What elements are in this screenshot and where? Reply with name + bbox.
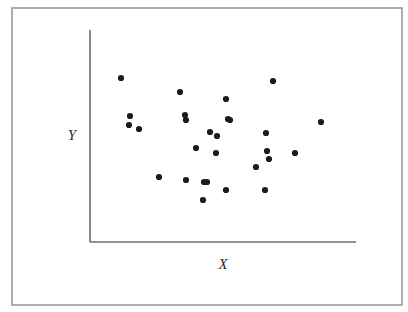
data-point [214,133,220,139]
data-point [200,197,206,203]
data-point [183,177,189,183]
data-point [201,179,207,185]
data-point [127,113,133,119]
data-point [227,117,233,123]
scatterplot-canvas: Y X [0,0,408,312]
data-point [183,117,189,123]
data-point [266,156,272,162]
scatterplot-figure: Y X [0,0,408,312]
data-point [118,75,124,81]
data-point [263,130,269,136]
data-point [207,129,213,135]
data-point [223,187,229,193]
data-point [156,174,162,180]
data-point [213,150,219,156]
data-point [177,89,183,95]
data-point [262,187,268,193]
data-point [253,164,259,170]
data-point [270,78,276,84]
data-point [193,145,199,151]
canvas-background [0,0,408,312]
data-point [292,150,298,156]
data-point [264,148,270,154]
data-point [136,126,142,132]
data-point [223,96,229,102]
data-point [126,122,132,128]
data-point [318,119,324,125]
x-axis-label: X [217,256,228,272]
